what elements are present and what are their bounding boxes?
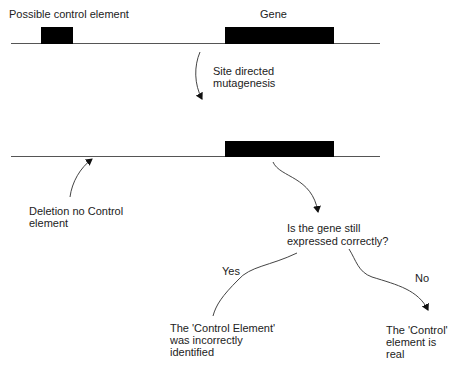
gene-block-bottom (225, 141, 334, 157)
gene-block-top (225, 27, 334, 44)
control-element-label: Possible control element (9, 8, 129, 21)
deletion-arrow (70, 159, 92, 197)
yes-label: Yes (222, 265, 240, 278)
mutated-dna-strand (11, 141, 380, 157)
deletion-label-line2: element (29, 217, 68, 230)
question-label-line1: Is the gene still (287, 222, 360, 235)
no-label: No (415, 272, 429, 285)
original-dna-strand (11, 27, 380, 44)
yes-outcome-line1: The 'Control Element' (170, 322, 275, 335)
yes-outcome-line3: identified (170, 346, 214, 359)
diagram-canvas (0, 0, 453, 368)
no-outcome-line2: element is (386, 336, 436, 349)
deletion-label-line1: Deletion no Control (29, 205, 123, 218)
mutagenesis-label-line2: mutagenesis (213, 77, 275, 90)
mutagenesis-label-line1: Site directed (213, 65, 274, 78)
yes-outcome-line2: was incorrectly (170, 334, 243, 347)
control-element-block (41, 27, 73, 44)
yes-branch-line (213, 253, 297, 316)
gene-to-question-arrow (273, 162, 318, 212)
no-outcome-line3: real (386, 348, 404, 361)
no-outcome-line1: The 'Control' (386, 324, 448, 337)
question-label-line2: expressed correctly? (287, 235, 389, 248)
gene-label: Gene (260, 8, 287, 21)
mutagenesis-arrow (196, 52, 202, 99)
